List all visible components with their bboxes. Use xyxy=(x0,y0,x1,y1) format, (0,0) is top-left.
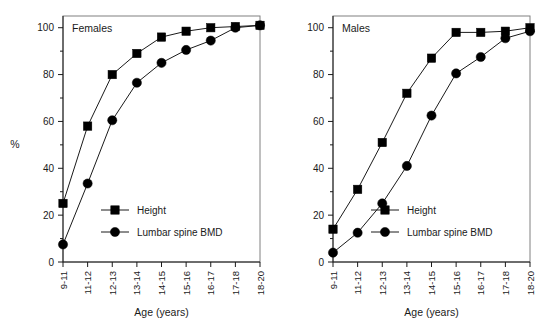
series-line-square xyxy=(63,25,260,203)
figure-container: 0204060801009-1111-1212-1313-1414-1515-1… xyxy=(0,0,540,328)
y-tick-label: 100 xyxy=(37,22,54,33)
data-point-square xyxy=(353,185,361,193)
panel-title: Females xyxy=(72,22,112,34)
y-tick-label: 80 xyxy=(313,69,325,80)
y-tick-label: 60 xyxy=(43,116,55,127)
legend-label: Height xyxy=(407,205,436,216)
legend-label: Lumbar spine BMD xyxy=(137,227,223,238)
legend-marker-square xyxy=(111,206,119,214)
panel-males: 0204060801009-1111-1212-1313-1414-1515-1… xyxy=(270,0,540,328)
plot-area-males: 0204060801009-1111-1212-1313-1414-1515-1… xyxy=(270,0,540,328)
data-point-circle xyxy=(452,69,461,78)
x-axis-title: Age (years) xyxy=(404,306,458,318)
data-point-square xyxy=(452,28,460,36)
x-tick-label: 18-20 xyxy=(525,271,536,295)
legend-marker-circle xyxy=(110,227,119,236)
legend-label: Lumbar spine BMD xyxy=(407,227,493,238)
data-point-circle xyxy=(132,78,141,87)
x-tick-label: 17-18 xyxy=(230,271,241,295)
data-point-circle xyxy=(501,34,510,43)
x-tick-label: 9-11 xyxy=(328,271,339,289)
panel-title: Males xyxy=(342,22,370,34)
data-point-circle xyxy=(402,161,411,170)
data-point-square xyxy=(108,70,116,78)
x-tick-label: 15-16 xyxy=(451,271,462,295)
x-tick-label: 11-12 xyxy=(82,271,93,295)
x-tick-label: 13-14 xyxy=(131,271,142,295)
x-tick-label: 12-13 xyxy=(377,271,388,295)
y-tick-label: 0 xyxy=(318,257,324,268)
data-point-circle xyxy=(255,21,264,30)
y-tick-label: 20 xyxy=(43,210,55,221)
x-tick-label: 15-16 xyxy=(181,271,192,295)
y-tick-label: 60 xyxy=(313,116,325,127)
data-point-circle xyxy=(58,240,67,249)
data-point-square xyxy=(182,27,190,35)
y-tick-label: 100 xyxy=(307,22,324,33)
data-point-circle xyxy=(83,179,92,188)
x-axis-title: Age (years) xyxy=(134,306,188,318)
data-point-square xyxy=(133,49,141,57)
data-point-circle xyxy=(476,52,485,61)
x-tick-label: 14-15 xyxy=(426,271,437,295)
panel-females: 0204060801009-1111-1212-1313-1414-1515-1… xyxy=(0,0,270,328)
x-tick-label: 18-20 xyxy=(255,271,266,295)
data-point-square xyxy=(403,89,411,97)
data-point-square xyxy=(83,122,91,130)
series-line-circle xyxy=(333,31,530,252)
x-tick-label: 13-14 xyxy=(401,271,412,295)
y-axis-title: % xyxy=(10,138,19,150)
data-point-circle xyxy=(328,248,337,257)
data-point-circle xyxy=(427,111,436,120)
data-point-square xyxy=(157,33,165,41)
x-tick-label: 16-17 xyxy=(475,271,486,295)
data-point-square xyxy=(59,199,67,207)
data-point-circle xyxy=(231,23,240,32)
legend-label: Height xyxy=(137,205,166,216)
y-tick-label: 40 xyxy=(43,163,55,174)
data-point-square xyxy=(378,138,386,146)
x-tick-label: 14-15 xyxy=(156,271,167,295)
data-point-circle xyxy=(108,116,117,125)
data-point-circle xyxy=(157,58,166,67)
legend-marker-circle xyxy=(380,227,389,236)
x-tick-label: 17-18 xyxy=(500,271,511,295)
data-point-square xyxy=(207,24,215,32)
y-tick-label: 80 xyxy=(43,69,55,80)
y-tick-label: 0 xyxy=(48,257,54,268)
data-point-circle xyxy=(353,228,362,237)
data-point-circle xyxy=(206,36,215,45)
data-point-square xyxy=(329,225,337,233)
y-tick-label: 20 xyxy=(313,210,325,221)
plot-area-females: 0204060801009-1111-1212-1313-1414-1515-1… xyxy=(0,0,270,328)
x-tick-label: 11-12 xyxy=(352,271,363,295)
x-tick-label: 9-11 xyxy=(58,271,69,289)
y-tick-label: 40 xyxy=(313,163,325,174)
legend-marker-square xyxy=(381,206,389,214)
data-point-circle xyxy=(182,45,191,54)
data-point-square xyxy=(427,54,435,62)
data-point-square xyxy=(477,28,485,36)
data-point-circle xyxy=(525,27,534,36)
x-tick-label: 16-17 xyxy=(205,271,216,295)
plot-frame xyxy=(63,16,260,262)
plot-frame xyxy=(333,16,530,262)
x-tick-label: 12-13 xyxy=(107,271,118,295)
